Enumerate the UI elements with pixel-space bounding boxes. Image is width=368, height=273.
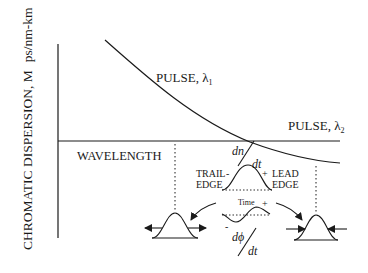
chromatic-dispersion-diagram: CHROMATIC DISPERSION, Mps/nm-km PULSE, λ…: [0, 0, 368, 273]
time-minus-sign: -: [225, 221, 228, 232]
dt-bottom-label: dt: [248, 244, 258, 258]
pulse-lambda1-label: PULSE, λ1: [156, 70, 213, 87]
trail-label: TRAIL: [196, 168, 225, 179]
phase-derivative-curve: [222, 207, 270, 222]
dphi-label: dϕ: [232, 230, 244, 244]
trail-sign: -: [226, 168, 229, 179]
time-label: Time: [238, 198, 255, 207]
y-axis-label: CHROMATIC DISPERSION, Mps/nm-km: [20, 7, 35, 250]
left-pulse: [152, 213, 198, 238]
dt-top-label: dt: [252, 157, 262, 171]
time-plus-sign: +: [262, 198, 268, 209]
lead-sign: +: [262, 168, 268, 179]
arrow-to-left-pulse: [191, 203, 216, 220]
lead-label: LEAD: [272, 168, 299, 179]
dispersion-curve: [105, 40, 340, 163]
pulse-lambda2-label: PULSE, λ2: [288, 118, 345, 135]
lead-edge-label: EDGE: [272, 179, 299, 190]
wavelength-label: WAVELENGTH: [77, 149, 161, 163]
arrow-to-right-pulse: [276, 203, 302, 220]
trail-edge-label: EDGE: [196, 179, 223, 190]
dn-label: dn: [232, 144, 244, 158]
